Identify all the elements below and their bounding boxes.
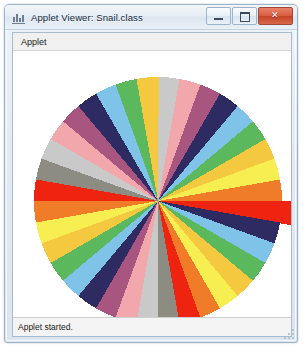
resize-grip[interactable] — [283, 328, 295, 340]
maximize-button[interactable] — [232, 7, 257, 25]
minimize-button[interactable] — [206, 7, 231, 25]
title-bar[interactable]: Applet Viewer: Snail.class ✕ — [5, 5, 297, 30]
close-button[interactable]: ✕ — [258, 7, 293, 25]
client-area: Applet Applet started. — [12, 32, 292, 337]
applet-viewer-icon — [12, 10, 26, 24]
menu-bar: Applet — [13, 33, 291, 51]
maximize-icon — [240, 12, 250, 22]
status-text: Applet started. — [13, 322, 73, 332]
minimize-icon — [214, 18, 223, 20]
applet-canvas[interactable] — [13, 51, 291, 317]
window-title: Applet Viewer: Snail.class — [31, 12, 143, 23]
menu-applet[interactable]: Applet — [15, 36, 53, 48]
snail-pie-chart — [13, 51, 291, 317]
window-controls: ✕ — [206, 7, 293, 25]
status-bar: Applet started. — [13, 317, 291, 336]
applet-viewer-window: Applet Viewer: Snail.class ✕ Applet Appl… — [4, 4, 298, 343]
close-icon: ✕ — [271, 11, 280, 20]
